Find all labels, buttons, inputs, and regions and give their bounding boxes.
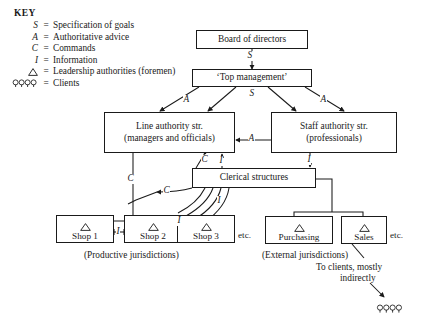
- edge-top-to-staff-s: [268, 87, 296, 111]
- edge-label-board-to-top: S: [247, 51, 253, 61]
- edge-label-top-to-line-a: A: [183, 95, 190, 105]
- key-equals-foremen: =: [42, 66, 50, 78]
- key-symbol-a: A: [12, 32, 42, 44]
- edge-label-shop1-shop2-i: I: [116, 227, 120, 237]
- node-line-authority-label: Line authority str.: [136, 121, 203, 133]
- node-sales[interactable]: Sales: [341, 216, 387, 244]
- edge-label-shops-to-clerical-i: I: [217, 196, 221, 206]
- annotation-etc-left: etc.: [238, 230, 251, 240]
- edge-label-clerical-to-shops-c: C: [163, 186, 170, 196]
- node-shop-2[interactable]: Shop 2: [124, 215, 182, 243]
- edge-sales-to-note: [352, 244, 364, 258]
- foreman-triangle-icon: [148, 223, 159, 231]
- edge-clerical-to-shops-c2: [128, 192, 157, 204]
- key-entry-a: A = Authoritative advice: [12, 32, 212, 44]
- triangle-icon: [12, 66, 42, 78]
- node-shop-2-label: Shop 2: [140, 231, 166, 241]
- node-board-label: Board of directors: [218, 34, 286, 46]
- key-title: KEY: [12, 8, 212, 18]
- edge-clerical-right-trunk: [315, 179, 332, 212]
- clients-icon-bottom: [376, 300, 404, 318]
- node-top-management[interactable]: ‘Top management’: [192, 69, 312, 87]
- node-board-of-directors[interactable]: Board of directors: [196, 30, 308, 49]
- foreman-triangle-icon: [80, 223, 91, 231]
- edge-label-top-center-s: S: [249, 89, 255, 99]
- annotation-productive-jurisdictions: (Productive jurisdictions): [84, 250, 179, 260]
- key-entry-foremen: = Leadership authorities (foremen): [12, 66, 212, 78]
- node-purchasing-label: Purchasing: [279, 232, 320, 242]
- key-equals-i: =: [42, 55, 50, 67]
- node-clerical-structures[interactable]: Clerical structures: [192, 168, 316, 188]
- key-entry-clients: = Clients: [12, 78, 212, 90]
- node-line-authority[interactable]: Line authority str. (managers and offici…: [104, 112, 235, 153]
- key-legend: KEY S = Specification of goals A = Autho…: [12, 8, 212, 90]
- key-definition-c: Commands: [50, 43, 95, 55]
- key-symbol-s: S: [12, 20, 42, 32]
- key-definition-clients: Clients: [50, 78, 79, 90]
- key-entry-i: I = Information: [12, 55, 212, 67]
- key-symbol-c: C: [12, 43, 42, 55]
- edge-label-shop2-shop3-i: I: [177, 216, 181, 226]
- foreman-triangle-icon: [294, 224, 305, 232]
- edge-label-staff-to-line-a: A: [248, 134, 255, 144]
- key-entry-c: C = Commands: [12, 43, 212, 55]
- key-definition-i: Information: [50, 55, 97, 67]
- annotation-etc-right: etc.: [390, 230, 403, 240]
- edge-top-to-line: [160, 87, 199, 111]
- key-equals-clients: =: [42, 78, 50, 90]
- node-shop-1[interactable]: Shop 1: [56, 215, 114, 243]
- edge-label-staff-to-clerical-i: I: [307, 155, 311, 165]
- node-staff-authority-label: Staff authority str.: [300, 121, 368, 133]
- edge-label-line-to-shops-c: C: [127, 174, 134, 184]
- node-line-authority-sublabel: (managers and officials): [124, 133, 215, 145]
- key-definition-a: Authoritative advice: [50, 32, 129, 44]
- edge-label-clerical-to-line-i: I: [219, 156, 223, 166]
- key-entry-s: S = Specification of goals: [12, 20, 212, 32]
- node-shop-3-label: Shop 3: [193, 231, 219, 241]
- node-shop-3[interactable]: Shop 3: [177, 215, 235, 243]
- node-staff-authority[interactable]: Staff authority str. (professionals): [271, 112, 397, 153]
- key-symbol-i: I: [12, 55, 42, 67]
- node-staff-authority-sublabel: (professionals): [306, 133, 362, 145]
- foreman-triangle-icon: [359, 224, 370, 232]
- edge-top-to-line-s: [208, 87, 236, 111]
- edge-label-line-to-clerical-c: C: [201, 155, 208, 165]
- annotation-to-clients-line1: To clients, mostly: [316, 262, 382, 274]
- edge-shops-to-clerical-i1: [178, 188, 205, 213]
- clients-icon: [12, 78, 42, 90]
- node-clerical-label: Clerical structures: [220, 172, 288, 184]
- key-equals-s: =: [42, 20, 50, 32]
- key-definition-s: Specification of goals: [50, 20, 134, 32]
- annotation-external-jurisdictions: (External jurisdictions): [262, 250, 348, 260]
- foreman-triangle-icon: [201, 223, 212, 231]
- node-purchasing[interactable]: Purchasing: [265, 216, 333, 244]
- diagram-page: KEY S = Specification of goals A = Autho…: [0, 0, 427, 330]
- edge-label-top-to-staff-a: A: [320, 95, 327, 105]
- edge-shops-to-clerical-i2: [186, 188, 213, 216]
- key-definition-foremen: Leadership authorities (foremen): [50, 66, 175, 78]
- node-shop-1-label: Shop 1: [72, 231, 98, 241]
- edge-note-to-clients: [370, 283, 384, 297]
- annotation-to-clients-line2: indirectly: [340, 273, 376, 285]
- key-equals-a: =: [42, 32, 50, 44]
- key-equals-c: =: [42, 43, 50, 55]
- node-top-management-label: ‘Top management’: [217, 72, 288, 84]
- node-sales-label: Sales: [354, 232, 373, 242]
